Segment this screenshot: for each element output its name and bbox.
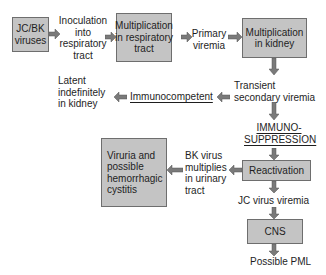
label-immunosuppression: IMMUNO- SUPPRESSION <box>244 122 314 145</box>
arrow-down-icon <box>269 207 279 219</box>
arrow-down-icon <box>269 181 279 193</box>
label-latent-in-kidney: Latent indefinitely in kidney <box>58 75 113 110</box>
node-multiplication-kidney-label: Multiplication in kidney <box>246 27 304 50</box>
arrow-right-icon <box>105 32 116 42</box>
label-bk-virus-multiplies: BK virus multiplies in urinary tract <box>185 150 229 196</box>
label-transient-secondary-viremia: Transient secondary viremia <box>234 80 326 103</box>
arrow-down-icon <box>269 244 279 256</box>
arrow-down-icon <box>269 58 279 75</box>
arrow-down-icon <box>269 148 279 160</box>
label-primary-viremia: Primary viremia <box>189 28 229 51</box>
node-viruria-label: Viruria and possible hemorrhagic cystiti… <box>107 150 163 196</box>
arrow-right-icon <box>181 32 192 42</box>
node-cns-label: CNS <box>264 226 285 238</box>
arrow-down-icon <box>269 102 279 120</box>
arrow-left-icon <box>217 92 230 102</box>
label-inoculation: Inoculation into respiratory tract <box>57 15 109 61</box>
label-jc-virus-viremia: JC virus viremia <box>238 195 318 207</box>
node-multiplication-respiratory: Multiplication in respiratory tract <box>116 13 172 62</box>
node-reactivation: Reactivation <box>242 160 311 181</box>
arrow-left-icon <box>167 165 183 175</box>
arrow-left-icon <box>114 92 127 102</box>
node-multiplication-kidney: Multiplication in kidney <box>242 18 307 58</box>
node-viruria: Viruria and possible hemorrhagic cystiti… <box>101 138 167 207</box>
node-cns: CNS <box>247 219 303 244</box>
arrow-right-icon <box>228 32 242 42</box>
node-jcbk-viruses-label: JC/BK viruses <box>15 23 47 46</box>
node-multiplication-respiratory-label: Multiplication in respiratory tract <box>115 20 173 55</box>
label-immunosuppression-text: IMMUNO- SUPPRESSION <box>244 122 316 145</box>
label-immunocompetent: Immunocompetent <box>130 91 213 103</box>
arrow-left-icon <box>229 165 242 175</box>
label-immunocompetent-text: Immunocompetent <box>130 91 213 102</box>
arrow-right-icon <box>49 29 60 39</box>
node-reactivation-label: Reactivation <box>249 165 304 177</box>
label-possible-pml: Possible PML <box>250 256 320 268</box>
node-jcbk-viruses: JC/BK viruses <box>12 17 49 52</box>
